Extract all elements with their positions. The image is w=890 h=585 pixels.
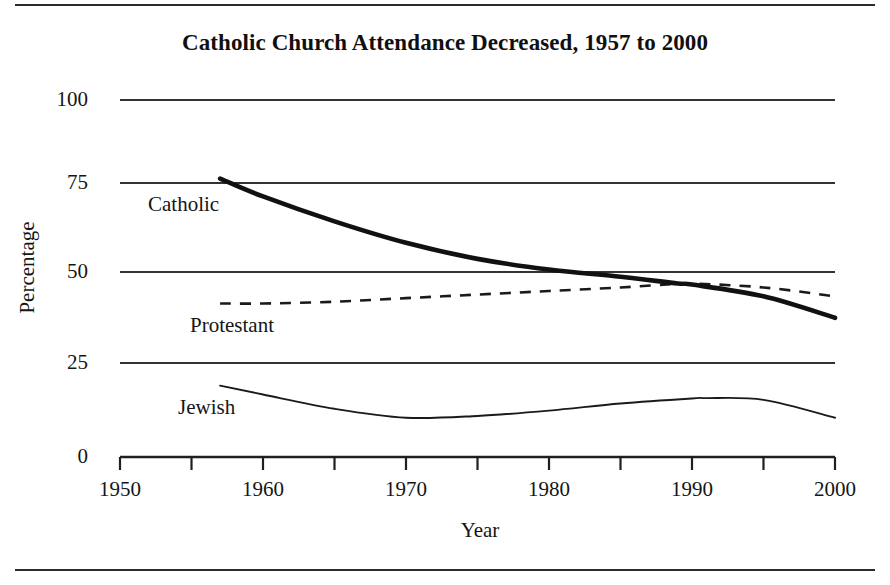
x-tick-label-1990: 1990 <box>647 477 737 502</box>
chart-figure: Catholic Church Attendance Decreased, 19… <box>0 0 890 585</box>
x-tick-label-2000: 2000 <box>790 477 880 502</box>
x-tick-label-1950: 1950 <box>75 477 165 502</box>
series-label-jewish: Jewish <box>178 395 235 420</box>
y-tick-label-25: 25 <box>18 350 88 375</box>
series-line-jewish <box>220 386 835 419</box>
x-tick-label-1970: 1970 <box>361 477 451 502</box>
x-axis-title: Year <box>330 518 630 543</box>
series-lines <box>220 179 835 419</box>
y-tick-label-75: 75 <box>18 170 88 195</box>
y-tick-label-100: 100 <box>18 87 88 112</box>
series-label-protestant: Protestant <box>190 313 274 338</box>
x-tick-label-1980: 1980 <box>504 477 594 502</box>
x-tick-label-1960: 1960 <box>218 477 308 502</box>
series-label-catholic: Catholic <box>148 192 219 217</box>
series-line-catholic <box>220 179 835 318</box>
x-axis <box>120 457 835 470</box>
y-tick-label-0: 0 <box>18 444 88 469</box>
y-axis-title: Percentage <box>15 198 40 338</box>
